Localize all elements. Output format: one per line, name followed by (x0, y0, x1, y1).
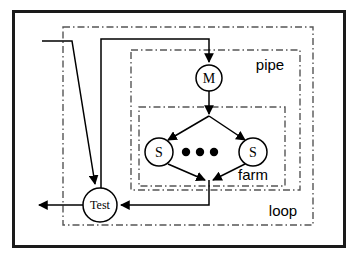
edge-fanout-to-slave-left (168, 116, 209, 140)
edge-external-input-to-test (42, 41, 95, 184)
diagram-svg: M S S Test pipe farm loop (0, 0, 356, 260)
group-label-pipe: pipe (256, 56, 284, 73)
node-test-label: Test (90, 198, 110, 212)
node-master[interactable]: M (196, 65, 222, 91)
node-test[interactable]: Test (83, 188, 117, 222)
diagram-canvas: M S S Test pipe farm loop (0, 0, 356, 260)
node-slave-left-label: S (155, 145, 163, 160)
ellipsis-dots (182, 148, 218, 156)
node-slave-left[interactable]: S (145, 138, 173, 166)
group-label-loop: loop (269, 202, 297, 219)
ellipsis-dot (210, 148, 218, 156)
edge-slave-left-to-join (168, 164, 205, 180)
node-slave-right-label: S (249, 145, 257, 160)
edge-farm-join-to-test (121, 180, 209, 205)
group-label-farm: farm (238, 166, 268, 183)
node-master-label: M (203, 71, 216, 86)
edge-fanout-to-slave-right (209, 116, 245, 140)
ellipsis-dot (182, 148, 190, 156)
ellipsis-dot (196, 148, 204, 156)
node-slave-right[interactable]: S (239, 138, 267, 166)
edge-feedback-into-master (101, 39, 209, 205)
